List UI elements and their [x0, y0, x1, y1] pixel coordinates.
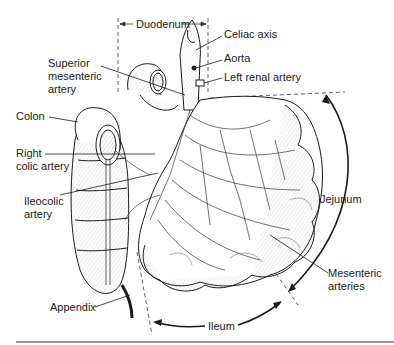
label-mesenteric-arteries: Mesenteric arteries: [328, 267, 382, 293]
small-intestine-illustration: [115, 96, 322, 291]
small-intestine-anatomy-diagram: Duodenum Celiac axis Aorta Left renal ar…: [0, 0, 394, 345]
appendix-illustration: [122, 285, 132, 318]
label-aorta: Aorta: [224, 52, 250, 65]
label-ileum: Ileum: [208, 320, 235, 333]
label-celiac-axis: Celiac axis: [224, 28, 277, 41]
label-duodenum: Duodenum: [136, 18, 190, 31]
duodenum-illustration: [128, 64, 178, 110]
label-appendix: Appendix: [50, 301, 96, 314]
label-jejunum: Jejunum: [320, 193, 362, 206]
label-colon: Colon: [16, 110, 45, 123]
aorta-illustration: [180, 20, 204, 110]
label-left-renal-artery: Left renal artery: [224, 71, 301, 84]
label-superior-mesenteric-artery: Superior mesenteric artery: [48, 57, 102, 96]
label-ileocolic-artery: Ileocolic artery: [24, 195, 64, 221]
label-right-colic-artery: Right colic artery: [16, 147, 69, 173]
colon-illustration: [71, 108, 129, 294]
